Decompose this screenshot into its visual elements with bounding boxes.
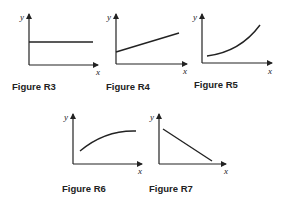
figure-r4-y-label: y [107, 12, 111, 22]
figure-r4-axes [116, 14, 187, 64]
figure-r3-axes [29, 14, 98, 65]
figure-r7-axes [159, 114, 226, 164]
figure-r6-caption: Figure R6 [62, 183, 106, 194]
figure-r5-x-label: x [268, 66, 272, 76]
figure-r6-axes [73, 114, 142, 164]
figure-r7-x-label: x [224, 166, 228, 176]
figure-r6-x-label: x [138, 166, 142, 176]
figures-canvas [0, 0, 287, 203]
figure-r5-curve [207, 25, 260, 56]
figure-r5-y-label: y [193, 12, 197, 22]
figure-r6-y-label: y [64, 112, 68, 122]
figure-r3-y-label: y [20, 12, 24, 22]
figure-r4-curve [116, 33, 179, 52]
figure-r4-caption: Figure R4 [106, 81, 150, 92]
figure-r5-caption: Figure R5 [194, 79, 238, 90]
figure-r3-caption: Figure R3 [12, 81, 56, 92]
figure-r7-curve [163, 129, 212, 161]
figure-r7-caption: Figure R7 [149, 183, 193, 194]
figure-r6-curve [80, 131, 136, 151]
figure-r3-x-label: x [96, 67, 100, 77]
figure-r7-y-label: y [150, 112, 154, 122]
figure-r4-x-label: x [183, 66, 187, 76]
